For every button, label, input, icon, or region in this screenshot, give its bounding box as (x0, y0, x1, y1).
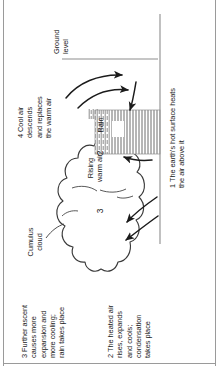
rotated-figure-wrapper: 3 Further ascent causes more expansion a… (0, 0, 219, 366)
label-ground-level: Ground level (52, 10, 71, 54)
label-cloud-marker-3: 3 (96, 204, 105, 218)
annotation-1: 1 The earth's hot surface heats the air … (168, 70, 187, 188)
cumulus-leader-line (46, 224, 64, 238)
label-updraft-marker-2: 2 (96, 146, 105, 160)
arrow-inflow (130, 82, 136, 110)
annotation-4: 4 Cool air descends and replaces the war… (16, 76, 53, 138)
convection-rainfall-diagram: 3 Further ascent causes more expansion a… (0, 0, 219, 366)
arrow-descending-inner (78, 90, 128, 108)
annotation-2: 2 The heated air rises, expands and cool… (106, 292, 152, 358)
label-rain: Rain (96, 112, 105, 138)
arrow-descending-outer (66, 75, 122, 98)
annotation-3: 3 Further ascent causes more expansion a… (20, 296, 66, 358)
label-cumulus-cloud: Cumulus cloud (26, 218, 45, 266)
